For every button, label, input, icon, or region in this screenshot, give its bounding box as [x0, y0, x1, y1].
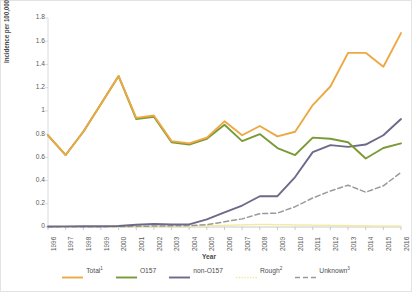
legend-item-unknown[interactable]: Unknown3: [295, 267, 349, 275]
legend-item-o157[interactable]: O157: [116, 267, 156, 274]
legend-item-non-o157[interactable]: non-O157: [169, 267, 223, 274]
x-axis-title-label: Year: [202, 253, 216, 260]
legend-swatch-icon: [169, 267, 190, 274]
plot-svg: [48, 18, 401, 227]
x-tick-label: 2006: [227, 237, 233, 251]
y-tick-label: 1.2: [3, 84, 45, 91]
y-tick-label: 0: [3, 223, 45, 230]
x-tick-label: 2008: [262, 237, 268, 251]
x-tick-label: 2009: [280, 237, 286, 251]
x-tick-label: 1997: [68, 237, 74, 251]
legend-label: Total1: [86, 267, 103, 275]
y-tick-label: 1.6: [3, 38, 45, 45]
x-tick-label: 2014: [368, 237, 374, 251]
legend-label: Unknown3: [319, 267, 349, 275]
x-tick-label: 2001: [139, 237, 145, 251]
x-tick-label: 2000: [121, 237, 127, 251]
x-tick-label: 2015: [386, 237, 392, 251]
series-line-total: [48, 33, 401, 155]
x-tick-label: 2012: [333, 237, 339, 251]
x-tick-label: 1999: [104, 237, 110, 251]
legend-label: non-O157: [193, 268, 223, 275]
chart-container: Incidence per 100,000 population 1.81.61…: [0, 0, 412, 292]
x-tick-label: 2002: [157, 237, 163, 251]
legend-label-superscript: 1: [100, 266, 103, 271]
series-line-unknown: [48, 172, 401, 226]
y-tick-label: 0.8: [3, 131, 45, 138]
x-tick-label: 2011: [315, 237, 321, 251]
x-tick-label: 2004: [192, 237, 198, 251]
y-tick-label: 0.4: [3, 177, 45, 184]
x-tick-label: 1998: [86, 237, 92, 251]
legend-label: Rough2: [260, 267, 282, 275]
legend-label-superscript: 3: [347, 266, 350, 271]
x-tick-label: 2016: [404, 237, 410, 251]
legend-label-superscript: 2: [280, 266, 283, 271]
x-tick-label: 2003: [174, 237, 180, 251]
y-tick-label: 1: [3, 107, 45, 114]
plot-area: [48, 18, 401, 227]
x-tick-label: 1996: [51, 237, 57, 251]
legend-item-rough[interactable]: Rough2: [236, 267, 282, 275]
y-axis-tick-labels: 1.81.61.41.210.80.60.40.20: [1, 1, 45, 294]
x-tick-label: 2010: [298, 237, 304, 251]
legend-label: O157: [140, 268, 156, 275]
chart-legend: Total1O157non-O157Rough2Unknown3: [1, 267, 411, 275]
legend-swatch-icon: [62, 267, 83, 274]
legend-swatch-icon: [116, 267, 137, 274]
x-tick-label: 2013: [351, 237, 357, 251]
y-tick-label: 1.8: [3, 14, 45, 21]
y-tick-label: 0.2: [3, 200, 45, 207]
legend-swatch-icon: [236, 267, 257, 274]
y-tick-label: 1.4: [3, 61, 45, 68]
x-tick-label: 2007: [245, 237, 251, 251]
x-tick-label: 2005: [209, 237, 215, 251]
legend-swatch-icon: [295, 267, 316, 274]
legend-item-total[interactable]: Total1: [62, 267, 103, 275]
y-tick-label: 0.6: [3, 154, 45, 161]
x-axis-title: Year: [1, 253, 411, 260]
series-line-non-o157: [48, 119, 401, 227]
